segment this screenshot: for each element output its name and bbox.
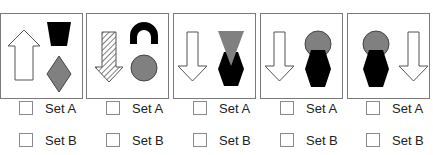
option-set-b-3[interactable]: Set B xyxy=(193,132,251,148)
checkbox[interactable] xyxy=(193,101,207,115)
up-arrow-icon xyxy=(8,30,40,80)
option-label: Set A xyxy=(45,101,76,116)
checkbox[interactable] xyxy=(366,101,380,115)
option-set-a-1[interactable]: Set A xyxy=(19,100,76,116)
checkbox[interactable] xyxy=(106,133,120,147)
panel-1 xyxy=(0,13,83,99)
hexagon-icon xyxy=(363,50,389,87)
trapezoid-icon xyxy=(47,22,71,46)
option-set-a-4[interactable]: Set A xyxy=(280,100,337,116)
option-set-b-2[interactable]: Set B xyxy=(106,132,164,148)
down-arrow-icon xyxy=(265,32,294,81)
option-label: Set B xyxy=(45,133,77,148)
option-label: Set A xyxy=(219,101,250,116)
down-arrow-icon xyxy=(178,32,207,81)
option-set-a-3[interactable]: Set A xyxy=(193,100,250,116)
option-label: Set B xyxy=(306,133,338,148)
checkbox[interactable] xyxy=(280,133,294,147)
down-arrow-icon xyxy=(399,32,428,81)
panel-4 xyxy=(260,13,343,99)
circle-icon xyxy=(131,55,157,81)
option-label: Set B xyxy=(392,133,424,148)
arch-icon xyxy=(130,22,158,44)
checkbox[interactable] xyxy=(193,133,207,147)
checkbox[interactable] xyxy=(280,101,294,115)
checkbox[interactable] xyxy=(19,133,33,147)
hexagon-icon xyxy=(305,50,331,87)
option-label: Set B xyxy=(219,133,251,148)
option-set-a-2[interactable]: Set A xyxy=(106,100,163,116)
option-label: Set A xyxy=(132,101,163,116)
checkbox[interactable] xyxy=(106,101,120,115)
diamond-icon xyxy=(47,56,71,92)
option-label: Set A xyxy=(306,101,337,116)
panel-2 xyxy=(86,13,169,99)
option-set-b-1[interactable]: Set B xyxy=(19,132,77,148)
option-set-b-5[interactable]: Set B xyxy=(366,132,424,148)
hatched-down-arrow-icon xyxy=(95,32,123,82)
panel-5 xyxy=(347,13,430,99)
option-set-a-5[interactable]: Set A xyxy=(366,100,423,116)
checkbox[interactable] xyxy=(19,101,33,115)
option-set-b-4[interactable]: Set B xyxy=(280,132,338,148)
panel-3 xyxy=(173,13,256,99)
checkbox[interactable] xyxy=(366,133,380,147)
option-label: Set A xyxy=(392,101,423,116)
option-label: Set B xyxy=(132,133,164,148)
